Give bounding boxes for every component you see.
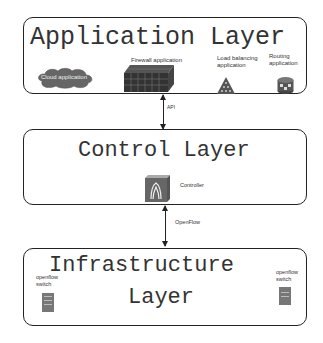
control-layer-box: Control Layer Controller	[23, 129, 307, 205]
firewall-icon	[124, 65, 174, 93]
openflow-label: OpenFlow	[175, 219, 200, 226]
application-layer-box: Application Layer Cloud application Fire…	[23, 17, 307, 94]
control-layer-title: Control Layer	[78, 140, 250, 162]
router-icon	[277, 77, 294, 94]
openflow-switch-left-label: openflow switch	[36, 274, 58, 287]
routing-application-label: Routing application	[269, 53, 298, 67]
switch-icon	[279, 287, 291, 305]
controller-label: Controller	[180, 182, 204, 189]
infrastructure-layer-title-line2: Layer	[128, 287, 194, 309]
api-arrow	[163, 95, 164, 129]
controller-icon	[145, 175, 170, 202]
load-balancing-label: Load balancing application	[217, 55, 258, 69]
application-layer-title: Application Layer	[30, 25, 285, 50]
openflow-switch-right-label: openflow switch	[276, 269, 298, 282]
switch-icon	[42, 293, 54, 312]
openflow-arrow	[165, 206, 166, 246]
firewall-application-label: Firewall application	[131, 57, 182, 64]
load-balancer-icon	[217, 77, 235, 94]
cloud-application-label: Cloud application	[41, 74, 87, 81]
api-label: API	[167, 104, 175, 110]
infrastructure-layer-title-line1: Infrastructure	[49, 255, 234, 277]
infrastructure-layer-box: Infrastructure Layer openflow switch ope…	[23, 248, 307, 326]
